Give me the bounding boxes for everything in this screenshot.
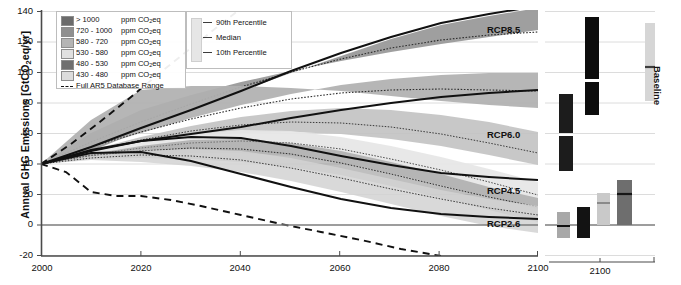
box-rcp85-lower [585,82,599,115]
legend-swatch-530-580 [61,49,74,59]
annotation-baseline: Baseline [652,46,663,126]
y-tick-40: 40 [7,157,33,168]
x-tick-2020: 2020 [121,262,161,273]
legend-swatch-580-720 [61,38,74,48]
box-480-530 [577,207,590,238]
legend-range-gt1000: > 1000 [76,15,120,25]
chart-root: Annual GHG Emissions [GtCO2eq/yr] [0,0,681,285]
y-tick-120: 120 [7,35,33,46]
median-line-icon [203,37,212,38]
legend-swatch-430-480 [61,71,74,81]
annotation-rcp26: RCP2.6 [487,218,520,229]
legend-range-430-480: 430 - 480 [76,70,120,80]
x-tick-2000: 2000 [22,262,62,273]
legend-unit-720-1000: ppm CO2eq [121,26,161,37]
y-tick-0: 0 [7,218,33,229]
y-axis-ticks [37,12,41,256]
annotation-rcp60: RCP6.0 [487,129,520,140]
box-580-720 [617,180,632,225]
x-tick-2080: 2080 [419,262,459,273]
annotation-rcp85: RCP8.5 [487,24,520,35]
x-tick-right-2100: 2100 [580,265,620,276]
y-tick-20: 20 [7,188,33,199]
y-tick-140: 140 [7,5,33,16]
legend-swatch-480-530 [61,60,74,70]
y-tick-neg20: -20 [7,249,33,260]
y-tick-60: 60 [7,127,33,138]
legend-scenarios: > 1000 ppm CO2eq 720 - 1000 ppm CO2eq 58… [56,11,186,89]
legend-range-720-1000: 720 - 1000 [76,26,120,36]
x-tick-2040: 2040 [220,262,260,273]
legend-label-p10: 10th Percentile [216,47,267,59]
legend-unit-gt1000: ppm CO2eq [121,15,161,26]
box-rcp60-upper [559,94,573,133]
legend-label-p90: 90th Percentile [216,17,267,29]
right-panel-boxes [557,17,659,238]
legend-unit-480-530: ppm CO2eq [121,59,161,70]
box-530-580 [597,193,610,225]
x-tick-2100: 2100 [518,262,558,273]
legend-swatch-gt1000 [61,16,74,26]
legend-swatch-720-1000 [61,27,74,37]
legend-percentiles: 90th Percentile Median 10th Percentile [186,11,292,69]
percentile-band-swatch [191,18,202,62]
legend-range-480-530: 480 - 530 [76,59,120,69]
y-tick-80: 80 [7,96,33,107]
legend-unit-580-720: ppm CO2eq [121,37,161,48]
legend-range-530-580: 530 - 580 [76,48,120,58]
annotation-rcp45: RCP4.5 [487,185,520,196]
box-rcp85-upper [585,17,599,79]
legend-label-median: Median [216,32,241,44]
p10-line-icon [203,52,212,53]
legend-range-580-720: 580 - 720 [76,37,120,47]
p90-line-icon [203,22,212,23]
x-tick-2060: 2060 [320,262,360,273]
y-tick-100: 100 [7,66,33,77]
dashed-line-icon [61,86,73,87]
legend-label-ar5-range: Full AR5 Database Range [76,81,164,91]
box-rcp60-lower [559,136,573,171]
legend-unit-430-480: ppm CO2eq [121,70,161,81]
legend-unit-530-580: ppm CO2eq [121,48,161,59]
